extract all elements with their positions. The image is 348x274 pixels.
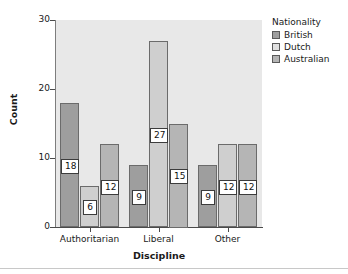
- bar-value-label: 18: [61, 159, 79, 174]
- bar-chart: 0102030 AuthoritarianLiberalOther 186129…: [0, 0, 348, 274]
- y-tick-mark: [50, 20, 55, 21]
- legend-swatch-icon: [272, 43, 280, 51]
- x-tick-mark: [228, 227, 229, 232]
- x-tick-mark: [90, 227, 91, 232]
- legend-item: British: [272, 30, 348, 40]
- legend-title: Nationality: [272, 17, 348, 27]
- bar-value-label: 15: [170, 169, 188, 184]
- x-axis-title: Discipline: [55, 250, 263, 261]
- bar-value-label: 6: [83, 200, 97, 215]
- bar-value-label: 12: [101, 180, 119, 195]
- x-category-label: Other: [178, 234, 278, 245]
- y-tick-label-wrap: 0: [0, 222, 50, 231]
- y-tick-label-wrap: 30: [0, 15, 50, 24]
- bottom-divider: [0, 268, 348, 269]
- legend-item-label: British: [284, 30, 313, 40]
- y-axis-line: [55, 20, 56, 228]
- legend: Nationality BritishDutchAustralian: [272, 17, 348, 66]
- legend-swatch-icon: [272, 55, 280, 63]
- y-tick-mark: [50, 89, 55, 90]
- y-tick-label: 10: [16, 153, 50, 162]
- y-tick-label: 20: [16, 84, 50, 93]
- bar-value-label: 12: [239, 180, 257, 195]
- y-axis-title: Count: [8, 80, 19, 140]
- bar-value-label: 9: [201, 190, 215, 205]
- y-tick-label: 0: [16, 222, 50, 231]
- bar-value-label: 9: [132, 190, 146, 205]
- legend-item-label: Australian: [284, 54, 330, 64]
- y-tick-mark: [50, 158, 55, 159]
- y-tick-mark: [50, 227, 55, 228]
- x-tick-mark: [159, 227, 160, 232]
- legend-item: Dutch: [272, 42, 348, 52]
- y-tick-label-wrap: 10: [0, 153, 50, 162]
- bar-value-label: 12: [219, 180, 237, 195]
- legend-swatch-icon: [272, 31, 280, 39]
- bar-value-label: 27: [150, 128, 168, 143]
- legend-item: Australian: [272, 54, 348, 64]
- y-tick-label: 30: [16, 15, 50, 24]
- legend-item-label: Dutch: [284, 42, 311, 52]
- legend-items: BritishDutchAustralian: [272, 30, 348, 64]
